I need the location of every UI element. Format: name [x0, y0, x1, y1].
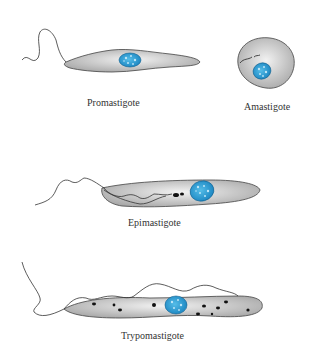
trypomastigote-figure [22, 262, 262, 318]
diagram-canvas [0, 0, 315, 352]
flagellum [22, 29, 66, 62]
promastigote-figure [22, 29, 200, 72]
epimastigote-label: Epimastigote [128, 217, 181, 228]
cell-body [238, 38, 294, 89]
nucleus [165, 296, 187, 314]
trypomastigote-label: Trypomastigote [121, 330, 184, 341]
amastigote-label: Amastigote [244, 101, 290, 112]
kinetoplast [173, 193, 179, 197]
epimastigote-figure [35, 178, 260, 207]
promastigote-label: Promastigote [87, 97, 140, 108]
amastigote-figure [238, 38, 294, 89]
nucleus [119, 53, 141, 67]
